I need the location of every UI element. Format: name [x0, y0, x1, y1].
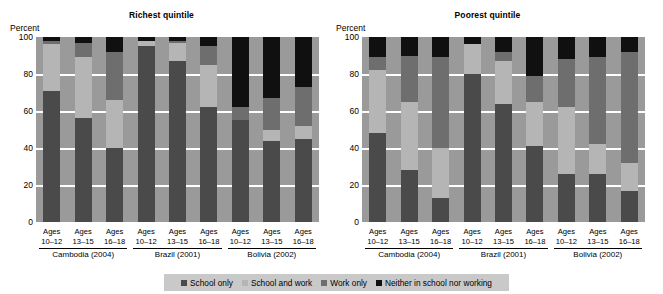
- bar-segment-neither[interactable]: [432, 37, 449, 57]
- group-label: Bolivia (2002): [217, 250, 327, 259]
- bar-segment-work-only[interactable]: [401, 56, 418, 102]
- bar-segment-neither[interactable]: [369, 37, 386, 57]
- bar-segment-neither[interactable]: [75, 37, 92, 43]
- bar-segment-school-only[interactable]: [621, 191, 638, 222]
- stacked-bar[interactable]: [432, 37, 449, 222]
- bar-segment-work-only[interactable]: [43, 41, 60, 45]
- stacked-bar[interactable]: [495, 37, 512, 222]
- bar-segment-work-only[interactable]: [621, 52, 638, 163]
- bar-segment-school-only[interactable]: [432, 198, 449, 222]
- stacked-bar[interactable]: [558, 37, 575, 222]
- bar-segment-school-only[interactable]: [75, 118, 92, 222]
- bar-segment-work-only[interactable]: [369, 57, 386, 70]
- stacked-bar[interactable]: [464, 37, 481, 222]
- bar-segment-school-only[interactable]: [138, 46, 155, 222]
- stacked-bar[interactable]: [43, 37, 60, 222]
- stacked-bar[interactable]: [200, 37, 217, 222]
- bar-segment-school-and-work[interactable]: [464, 44, 481, 74]
- bar-segment-school-and-work[interactable]: [138, 41, 155, 47]
- bar-segment-work-only[interactable]: [169, 41, 186, 43]
- bar-segment-school-only[interactable]: [295, 139, 312, 222]
- bar-segment-school-only[interactable]: [169, 61, 186, 222]
- y-axis-tick-label: 100: [19, 33, 33, 42]
- stacked-bar[interactable]: [589, 37, 606, 222]
- group-rule: [228, 248, 316, 249]
- bar-segment-school-only[interactable]: [495, 104, 512, 222]
- stacked-bar[interactable]: [169, 37, 186, 222]
- bar-segment-school-only[interactable]: [232, 120, 249, 222]
- legend-item[interactable]: Neither in school nor working: [376, 278, 492, 288]
- bar-segment-school-only[interactable]: [263, 141, 280, 222]
- group-rule: [39, 248, 127, 249]
- bar-segment-neither[interactable]: [295, 37, 312, 87]
- bar-segment-school-only[interactable]: [369, 133, 386, 222]
- bar-segment-work-only[interactable]: [495, 52, 512, 61]
- bar-segment-school-and-work[interactable]: [495, 61, 512, 104]
- bar-segment-school-and-work[interactable]: [621, 163, 638, 191]
- bar-segment-work-only[interactable]: [232, 107, 249, 120]
- bar-segment-neither[interactable]: [495, 37, 512, 52]
- bar-segment-work-only[interactable]: [75, 43, 92, 58]
- bar-segment-work-only[interactable]: [200, 46, 217, 65]
- bar-segment-work-only[interactable]: [106, 52, 123, 100]
- bar-segment-neither[interactable]: [263, 37, 280, 98]
- stacked-bar[interactable]: [369, 37, 386, 222]
- legend-item[interactable]: Work only: [321, 278, 367, 288]
- bar-segment-school-and-work[interactable]: [200, 65, 217, 108]
- bar-segment-neither[interactable]: [621, 37, 638, 52]
- bar-segment-work-only[interactable]: [295, 87, 312, 126]
- bar-segment-neither[interactable]: [558, 37, 575, 59]
- bar-segment-work-only[interactable]: [263, 98, 280, 129]
- bar-segment-school-and-work[interactable]: [526, 102, 543, 146]
- bar-segment-school-and-work[interactable]: [106, 100, 123, 148]
- legend-swatch-icon: [321, 280, 327, 286]
- legend-item[interactable]: School only: [181, 278, 233, 288]
- bar-segment-school-and-work[interactable]: [558, 107, 575, 174]
- bar-segment-school-and-work[interactable]: [263, 130, 280, 141]
- bar-segment-school-only[interactable]: [200, 107, 217, 222]
- bar-segment-school-and-work[interactable]: [295, 126, 312, 139]
- bar-segment-neither[interactable]: [169, 37, 186, 41]
- bar-segment-school-and-work[interactable]: [432, 148, 449, 198]
- bar-segment-school-only[interactable]: [526, 146, 543, 222]
- bar-segment-neither[interactable]: [232, 37, 249, 107]
- bar-segment-school-only[interactable]: [464, 74, 481, 222]
- stacked-bar[interactable]: [263, 37, 280, 222]
- bar-segment-school-and-work[interactable]: [43, 44, 60, 90]
- legend-item[interactable]: School and work: [242, 278, 312, 288]
- bar-segment-work-only[interactable]: [526, 76, 543, 102]
- group-rule: [459, 248, 547, 249]
- stacked-bar[interactable]: [295, 37, 312, 222]
- bar-segment-school-and-work[interactable]: [589, 144, 606, 174]
- bar-segment-work-only[interactable]: [432, 57, 449, 148]
- bar-segment-work-only[interactable]: [589, 57, 606, 144]
- bar-segment-school-and-work[interactable]: [75, 57, 92, 118]
- legend-label: Work only: [330, 278, 367, 288]
- bar-segment-neither[interactable]: [200, 37, 217, 46]
- bar-segment-neither[interactable]: [43, 37, 60, 41]
- bar-segment-neither[interactable]: [138, 37, 155, 41]
- bar-segment-school-only[interactable]: [589, 174, 606, 222]
- bar-segment-school-and-work[interactable]: [369, 70, 386, 133]
- bar-segment-school-and-work[interactable]: [401, 102, 418, 170]
- bar-segment-school-only[interactable]: [106, 148, 123, 222]
- bar-segment-neither[interactable]: [106, 37, 123, 52]
- chart-legend: School onlySchool and workWork onlyNeith…: [164, 274, 509, 291]
- bar-segment-neither[interactable]: [526, 37, 543, 76]
- bar-segment-neither[interactable]: [401, 37, 418, 56]
- bar-segment-school-only[interactable]: [43, 91, 60, 222]
- bar-segment-neither[interactable]: [464, 37, 481, 44]
- stacked-bar[interactable]: [138, 37, 155, 222]
- bar-segment-school-only[interactable]: [558, 174, 575, 222]
- stacked-bar[interactable]: [526, 37, 543, 222]
- stacked-bar[interactable]: [75, 37, 92, 222]
- bar-segment-school-and-work[interactable]: [169, 43, 186, 62]
- stacked-bar[interactable]: [232, 37, 249, 222]
- legend-swatch-icon: [242, 280, 248, 286]
- bar-segment-neither[interactable]: [589, 37, 606, 57]
- stacked-bar[interactable]: [621, 37, 638, 222]
- stacked-bar[interactable]: [106, 37, 123, 222]
- stacked-bar[interactable]: [401, 37, 418, 222]
- bar-segment-work-only[interactable]: [558, 59, 575, 107]
- bar-segment-school-only[interactable]: [401, 170, 418, 222]
